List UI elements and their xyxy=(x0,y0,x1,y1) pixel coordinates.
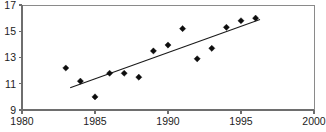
trend-line xyxy=(70,19,260,87)
trend-line-group xyxy=(70,19,260,87)
data-point xyxy=(92,94,98,100)
data-point xyxy=(223,24,229,30)
data-point xyxy=(107,70,113,76)
data-point xyxy=(180,26,186,32)
data-points-group xyxy=(63,15,259,100)
data-point xyxy=(121,70,127,76)
data-point xyxy=(209,45,215,51)
y-tick-label-13: 13 xyxy=(4,51,16,63)
data-point xyxy=(136,74,142,80)
data-point xyxy=(165,42,171,48)
data-point xyxy=(238,18,244,24)
x-tick-label-1985: 1985 xyxy=(83,115,107,127)
y-tick-label-9: 9 xyxy=(10,104,16,116)
data-point xyxy=(194,56,200,62)
y-tick-label-17: 17 xyxy=(4,0,16,11)
x-tick-label-1990: 1990 xyxy=(156,115,180,127)
data-point xyxy=(150,48,156,54)
data-point xyxy=(63,65,69,71)
plot-frame xyxy=(22,5,314,110)
scatter-chart: 911131517 19801985199019952000 xyxy=(0,0,326,132)
x-tick-label-1980: 1980 xyxy=(10,115,34,127)
x-axis xyxy=(22,110,314,114)
y-tick-label-11: 11 xyxy=(5,78,16,90)
x-tick-label-2000: 2000 xyxy=(302,115,326,127)
y-tick-label-15: 15 xyxy=(4,25,16,37)
y-tick-labels: 911131517 xyxy=(4,0,16,116)
x-tick-labels: 19801985199019952000 xyxy=(10,115,326,127)
y-axis xyxy=(19,5,23,110)
chart-canvas: 911131517 19801985199019952000 xyxy=(0,0,326,132)
x-tick-label-1995: 1995 xyxy=(229,115,253,127)
